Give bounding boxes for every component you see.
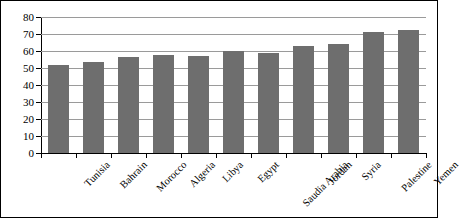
x-axis-label: Morocco	[154, 159, 189, 194]
y-tick-label: 80	[8, 12, 34, 23]
x-axis-label: Palestine	[399, 159, 434, 194]
x-tick-mark	[251, 153, 252, 158]
x-tick-mark	[356, 153, 357, 158]
bar-chart-figure: 80 70 60 50 40 30 20 10 0 TunisiaBahrain…	[0, 0, 438, 218]
x-tick-mark	[41, 153, 42, 158]
bar	[363, 32, 383, 153]
x-tick-mark	[216, 153, 217, 158]
x-axis-category-labels: TunisiaBahrainMoroccoAlgeriaLibyaEgyptSa…	[41, 159, 426, 219]
axis-baseline	[41, 153, 426, 154]
bar	[83, 62, 103, 153]
y-axis-tick-labels: 80 70 60 50 40 30 20 10 0	[1, 1, 34, 221]
x-axis-label: Bahrain	[117, 159, 148, 190]
x-axis-label: Yemen	[431, 159, 459, 187]
x-tick-mark	[426, 153, 427, 158]
y-tick-label: 70	[8, 29, 34, 40]
y-tick-label: 50	[8, 63, 34, 74]
y-tick-label: 20	[8, 114, 34, 125]
bar	[293, 46, 313, 153]
bar	[188, 56, 208, 153]
plot-area	[41, 17, 426, 153]
x-axis-label: Egypt	[255, 159, 281, 185]
y-tick-label: 60	[8, 46, 34, 57]
x-axis-label: Tunisia	[82, 159, 112, 189]
x-tick-mark	[111, 153, 112, 158]
bar	[153, 55, 173, 153]
y-tick-label: 0	[8, 148, 34, 159]
x-axis-label: Libya	[220, 159, 245, 184]
bar	[118, 57, 138, 153]
bar	[223, 51, 243, 153]
bar-series	[41, 17, 426, 153]
bar	[398, 30, 418, 153]
bar	[48, 65, 68, 153]
x-tick-mark	[286, 153, 287, 158]
x-tick-mark	[321, 153, 322, 158]
bar	[258, 53, 278, 153]
x-tick-mark	[391, 153, 392, 158]
x-tick-mark	[181, 153, 182, 158]
x-axis-label: Syria	[359, 159, 382, 182]
bar	[328, 44, 348, 153]
y-tick-label: 30	[8, 97, 34, 108]
x-tick-mark	[146, 153, 147, 158]
x-tick-mark	[76, 153, 77, 158]
y-tick-label: 40	[8, 80, 34, 91]
y-tick-label: 10	[8, 131, 34, 142]
x-axis-label: Algeria	[187, 159, 217, 189]
